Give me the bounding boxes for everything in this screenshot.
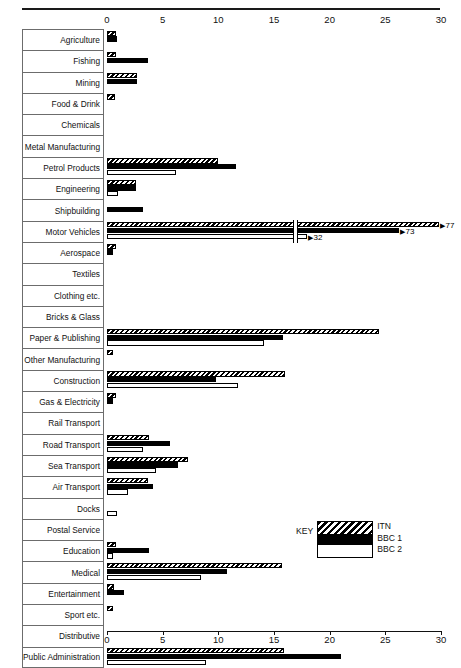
bar-itn	[107, 435, 149, 440]
chart-row	[107, 348, 441, 369]
chart-row	[107, 306, 441, 327]
category-label: Shipbuilding	[22, 199, 104, 220]
x-axis-bottom: 051015202530	[0, 634, 461, 650]
chart-row	[107, 263, 441, 284]
bar-bbc2	[107, 660, 206, 665]
chart-row	[107, 434, 441, 455]
chart-row: 777332	[107, 221, 441, 242]
category-label: Metal Manufacturing	[22, 135, 104, 156]
bar-bbc2	[107, 447, 143, 452]
legend-label-bbc1: BBC 1	[377, 533, 402, 545]
legend-swatch-bbc1	[318, 534, 372, 546]
bar-bbc2	[107, 468, 156, 473]
bar-itn	[107, 478, 148, 483]
bar-itn	[107, 94, 115, 99]
bar-bbc2	[107, 340, 264, 345]
bar-itn	[107, 180, 136, 185]
chart-row	[107, 412, 441, 433]
chart-row	[107, 561, 441, 582]
category-label-column: AgricultureFishingMiningFood & DrinkChem…	[22, 29, 104, 668]
axis-break-line	[293, 220, 294, 243]
category-label: Clothing etc.	[22, 285, 104, 306]
chart-row	[107, 242, 441, 263]
bar-bbc1	[107, 207, 143, 212]
category-label: Construction	[22, 370, 104, 391]
bar-bbc1	[107, 569, 227, 574]
bar-itn	[107, 52, 116, 57]
x-tick-label: 30	[436, 634, 447, 646]
x-tick-label: 15	[269, 634, 280, 646]
bar-bbc1	[107, 548, 149, 553]
x-axis-top: 051015202530	[0, 14, 461, 30]
bar-bbc1	[107, 79, 137, 84]
bar-itn	[107, 329, 379, 334]
bar-itn	[107, 350, 113, 355]
category-label: Agriculture	[22, 29, 104, 50]
bar-bbc1	[107, 462, 178, 467]
bar-bbc2	[107, 575, 201, 580]
x-tick-label: 0	[104, 634, 109, 646]
axis-break-line	[297, 220, 298, 243]
category-label: Postal Service	[22, 519, 104, 540]
category-label: Textiles	[22, 263, 104, 284]
category-label: Motor Vehicles	[22, 221, 104, 242]
bar-bbc1	[107, 36, 117, 41]
bar-itn	[107, 31, 116, 36]
category-label: Paper & Publishing	[22, 327, 104, 348]
bar-itn	[107, 393, 116, 398]
x-tick-mark	[163, 631, 164, 635]
x-tick-mark	[274, 631, 275, 635]
bar-itn	[107, 457, 188, 462]
bar-itn	[107, 222, 439, 227]
chart-row	[107, 29, 441, 50]
bar-bbc2	[107, 511, 117, 516]
bar-bbc2	[107, 553, 113, 558]
chart-row	[107, 327, 441, 348]
chart-row	[107, 50, 441, 71]
bar-itn	[107, 542, 116, 547]
category-label: Food & Drink	[22, 93, 104, 114]
bar-itn	[107, 244, 116, 249]
chart-row	[107, 604, 441, 625]
bar-bbc2	[107, 170, 176, 175]
legend: KEY ITN BBC 1 BBC 2	[296, 521, 402, 558]
bar-bbc1	[107, 164, 236, 169]
x-tick-mark	[385, 631, 386, 635]
category-label: Petrol Products	[22, 157, 104, 178]
x-tick-label: 5	[160, 14, 165, 26]
category-label: Rail Transport	[22, 412, 104, 433]
bar-bbc1	[107, 335, 283, 340]
bar-bbc1	[107, 441, 170, 446]
x-tick-mark	[107, 631, 108, 635]
category-label: Education	[22, 540, 104, 561]
bar-itn	[107, 563, 282, 568]
bar-value-label: 77	[440, 222, 454, 230]
bar-bbc1	[107, 654, 341, 659]
legend-labels: ITN BBC 1 BBC 2	[377, 521, 402, 556]
x-tick-label: 15	[269, 14, 280, 26]
bar-value-label: 32	[308, 234, 322, 242]
x-tick-label: 25	[380, 14, 391, 26]
bar-bbc1	[107, 185, 136, 190]
bar-bbc2	[107, 383, 238, 388]
x-tick-label: 10	[213, 14, 224, 26]
chart-row	[107, 455, 441, 476]
x-tick-label: 5	[160, 634, 165, 646]
chart-row	[107, 370, 441, 391]
category-label: Sport etc.	[22, 604, 104, 625]
bar-bbc1	[107, 590, 124, 595]
x-tick-mark	[441, 631, 442, 635]
bar-bbc1	[107, 249, 113, 254]
legend-label-bbc2: BBC 2	[377, 544, 402, 556]
bar-value-label: 73	[400, 228, 414, 236]
chart-row	[107, 114, 441, 135]
bar-itn	[107, 606, 113, 611]
category-label: Mining	[22, 72, 104, 93]
x-tick-label: 0	[104, 14, 109, 26]
bar-bbc1	[107, 484, 153, 489]
chart-row	[107, 498, 441, 519]
x-tick-label: 25	[380, 634, 391, 646]
category-label: Fishing	[22, 50, 104, 71]
category-label: Chemicals	[22, 114, 104, 135]
